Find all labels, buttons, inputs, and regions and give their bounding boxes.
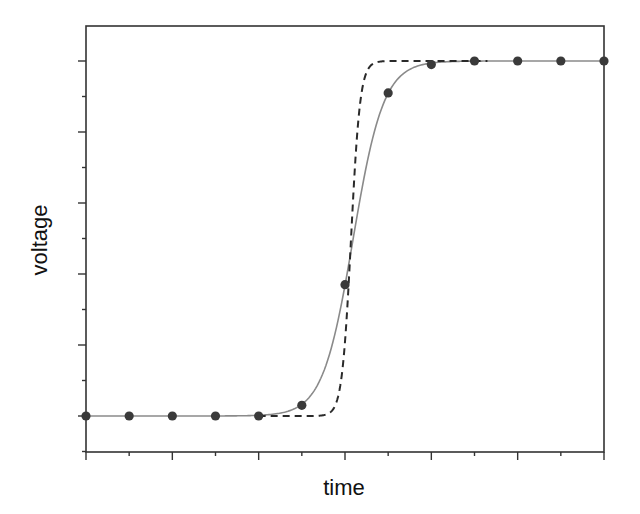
data-point	[513, 56, 522, 65]
data-point	[427, 60, 436, 69]
data-point	[470, 56, 479, 65]
data-point	[81, 411, 90, 420]
data-point	[211, 411, 220, 420]
plot-area-border	[86, 26, 604, 452]
data-point	[125, 411, 134, 420]
data-point	[297, 401, 306, 410]
x-axis-ticks	[86, 452, 604, 460]
x-axis-label: time	[323, 475, 365, 500]
fitted-response-line	[86, 61, 604, 416]
series-lines	[86, 61, 604, 416]
data-point	[340, 280, 349, 289]
data-point	[254, 411, 263, 420]
ideal-step-dashed-line	[259, 61, 488, 416]
data-point	[384, 88, 393, 97]
y-axis-ticks	[78, 61, 86, 452]
series-points	[81, 56, 608, 420]
y-axis-label: voltage	[27, 205, 52, 276]
plot-frame	[86, 26, 604, 452]
data-point	[168, 411, 177, 420]
data-point	[556, 56, 565, 65]
data-point	[599, 56, 608, 65]
chart: time voltage	[0, 0, 640, 514]
